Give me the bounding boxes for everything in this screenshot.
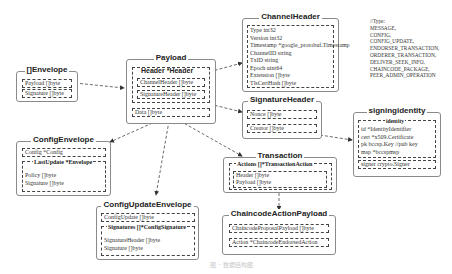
configenvelope-box: ConfigEnvelope Config *Config LastUpdate… [16,141,111,196]
signingidentity-title: signingidentity [367,106,428,115]
configupdateenvelope-signatures-group: Signatures []*ConfigSignature SignatureH… [101,226,195,256]
signingidentity-box: signingidentity identity id *IdentityIde… [353,112,441,177]
lastupdate-field-signature: Signature []byte [25,180,64,187]
configenvelope-lastupdate-group: LastUpdate *Envelope Policy []byte Signa… [22,161,106,192]
action-field-payload: Payload []byte [236,179,271,186]
identity-label: identity [385,118,405,125]
actions-label: Actions []*TransactionAction [236,161,313,168]
transaction-box: Transaction Actions []*TransactionAction… [223,157,337,193]
signatures-field-signatureheader: SignatureHeader []byte [104,237,160,244]
signatures-field-signature: Signature []byte [104,245,143,252]
payload-field-data: Data []byte [132,108,210,117]
envelope-title: []Envelope [25,65,70,74]
signatures-label: Signatures []*ConfigSignature [107,224,187,231]
action-field-header: Header []byte [236,172,269,179]
payload-header-label: Header *Header [141,67,193,75]
channelheader-field: TxID string [250,57,278,64]
transaction-title: Transaction [256,151,305,160]
signingidentity-field-signer: signer crypto.Signer [358,160,436,169]
envelope-field-signature: Signature []byte [22,89,72,98]
channelheader-field: ChannelID string [250,50,292,57]
signatureheader-box: SignatureHeader Nonce []byte Creator []b… [242,101,322,139]
envelope-box: []Envelope Payload []byte Signature []by… [16,71,78,102]
figure-caption: 图 ·· 数据结构图 [210,260,253,269]
payload-field-channelheader: ChannelHeader []byte [137,78,205,87]
identity-field: cert *x509.Certificate [361,134,413,141]
channelheader-box: ChannelHeader Type int32 Version int32 T… [242,18,339,92]
payload-field-signatureheader: SignatureHeader []byte [137,90,205,99]
chaincodeactionpayload-box: ChaincodeActionPayload ChaincodeProposal… [222,215,336,255]
signingidentity-identity-group: identity id *IdentityIdentifier cert *x5… [358,120,436,158]
type-note-line: PEER_ADMIN_OPERATION [370,72,436,79]
lastupdate-field-policy: Policy []byte [25,172,56,179]
channelheader-field: Extension []byte [250,72,290,79]
identity-field: msp *bccspmsp [361,149,399,156]
payload-title: Payload [154,53,189,62]
identity-field: id *IdentityIdentifier [361,126,411,133]
lastupdate-label: LastUpdate *Envelope [33,159,93,166]
configenvelope-field-config: Config *Config [22,148,106,157]
chaincodeactionpayload-title: ChaincodeActionPayload [229,209,329,218]
channelheader-fields-group: Type int32 Version int32 Timestamp *goog… [247,25,334,88]
payload-header-group: Header *Header ChannelHeader []byte Sign… [132,67,210,103]
chaincodeactionpayload-field-proposal: ChaincodeProposalPayload []byte [229,224,329,233]
signatureheader-field-creator: Creator []byte [247,124,317,133]
channelheader-field: TlsCertHash []byte [250,80,296,87]
configupdateenvelope-title: ConfigUpdateEnvelope [101,200,193,209]
transaction-action-fields: Header []byte Payload []byte [233,171,327,188]
transaction-actions-group: Actions []*TransactionAction Header []by… [229,163,332,190]
chaincodeactionpayload-field-action: Action *ChaincodeEndorsedAction [229,238,329,247]
channelheader-field: Epoch uint64 [250,65,282,72]
configupdateenvelope-box: ConfigUpdateEnvelope ConfigUpdate []byte… [96,206,199,260]
envelope-field-payload: Payload []byte [22,79,72,88]
identity-field: pk bccsp.Key //pub key [361,141,418,148]
channelheader-field: Version int32 [250,35,282,42]
signatureheader-field-nonce: Nonce []byte [247,110,317,119]
signatureheader-title: SignatureHeader [248,95,316,104]
channelheader-field: Type int32 [250,27,276,34]
channelheader-title: ChannelHeader [259,12,322,21]
payload-box: Payload Header *Header ChannelHeader []b… [126,59,216,124]
configupdateenvelope-field-configupdate: ConfigUpdate []byte [101,213,195,222]
channelheader-field: Timestamp *google_protobuf.Timestamp [250,42,350,49]
configenvelope-title: ConfigEnvelope [31,135,96,144]
